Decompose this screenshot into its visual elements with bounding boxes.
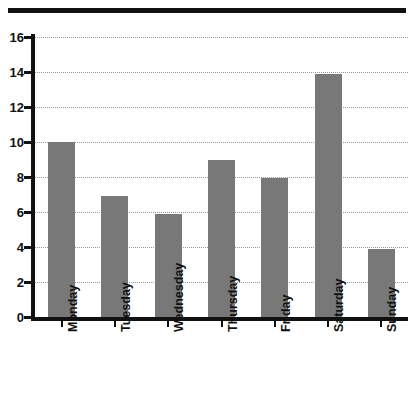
x-axis-tick-label: Saturday xyxy=(333,279,346,333)
bar-chart-figure: 0246810121416 MondayTuesdayWednesdayThur… xyxy=(0,0,414,403)
x-axis-tick-labels: MondayTuesdayWednesdayThursdayFridaySatu… xyxy=(0,0,414,403)
x-axis-tick-label: Friday xyxy=(280,294,293,332)
x-axis-tick-label: Thursday xyxy=(227,276,240,332)
x-axis-tick-label: Monday xyxy=(67,285,80,332)
x-axis-tick-label: Sunday xyxy=(386,287,399,332)
x-axis-tick-label: Tuesday xyxy=(120,282,133,332)
x-axis-tick-label: Wednesday xyxy=(173,263,186,332)
